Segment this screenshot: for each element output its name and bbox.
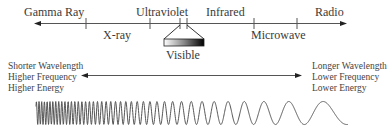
band-label-microwave: Microwave [251, 29, 306, 41]
left-line-frequency: Higher Frequency [8, 72, 83, 83]
band-label-infrared: Infrared [206, 6, 245, 18]
right-line-frequency: Lower Frequency [312, 72, 387, 83]
left-description: Shorter Wavelength Higher Frequency High… [8, 61, 83, 94]
right-line-wavelength: Longer Wavelength [312, 61, 387, 72]
left-line-energy: Higher Energy [8, 83, 83, 94]
band-label-x-ray: X-ray [103, 29, 131, 41]
band-label-radio: Radio [315, 6, 344, 18]
axis-left-arrowhead-icon [34, 21, 41, 26]
visible-zoom [164, 25, 204, 46]
band-label-ultraviolet: Ultraviolet [136, 6, 188, 18]
right-arrowhead-icon [295, 73, 302, 78]
band-label-gamma-ray: Gamma Ray [24, 6, 84, 18]
visible-label: Visible [166, 49, 200, 61]
right-description: Longer Wavelength Lower Frequency Lower … [312, 61, 387, 94]
axis-right-arrowhead-icon [340, 21, 347, 26]
direction-arrow [81, 73, 302, 78]
em-spectrum-diagram: Gamma Ray Ultraviolet Infrared Radio X-r… [0, 0, 390, 131]
left-line-wavelength: Shorter Wavelength [8, 61, 83, 72]
wave-path [36, 102, 348, 125]
visible-gradient-box [164, 39, 204, 46]
right-line-energy: Lower Energy [312, 83, 387, 94]
